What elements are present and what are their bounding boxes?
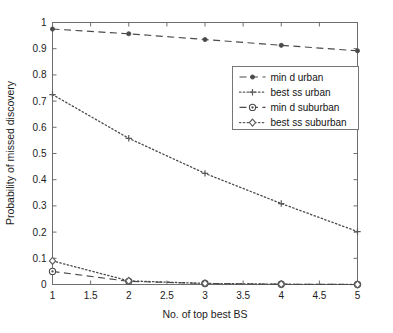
legend-label: best ss suburban [271,117,347,128]
data-point-marker-plus [202,170,208,176]
line-chart-figure: 00.10.20.30.40.50.60.70.80.91 11.522.533… [0,0,393,333]
chart-legend[interactable]: min d urbanbest ss urbanmin d suburbanbe… [233,67,359,130]
data-point-marker-circle-dot [249,104,255,110]
legend-label: best ss urban [271,87,331,98]
data-point-marker-plus [126,135,132,141]
y-tick-label: 0.9 [33,43,47,54]
series-min-d-urban [50,27,359,53]
x-tick-label: 1.5 [84,290,98,301]
y-tick-label: 0.4 [33,174,47,185]
data-point-marker-dot [250,75,254,79]
tick-marks-group [53,23,358,285]
x-tick-label: 3 [202,290,208,301]
data-point-marker-circle-dot [49,268,55,274]
plot-axes-frame [53,23,358,285]
data-point-marker-dot [203,37,207,41]
y-tick-label: 0.5 [33,148,47,159]
x-tick-label: 4.5 [312,290,326,301]
y-tick-label: 0.1 [33,253,47,264]
data-point-marker-dot [279,43,283,47]
y-tick-label: 0.2 [33,227,47,238]
x-tick-label: 2 [126,290,132,301]
y-tick-label: 1 [41,17,47,28]
y-tick-label: 0.3 [33,200,47,211]
x-tick-label: 4 [278,290,284,301]
y-tick-labels-group: 00.10.20.30.40.50.60.70.80.91 [33,17,47,290]
data-point-marker-plus [49,91,55,97]
legend-label: min d urban [271,72,324,83]
x-tick-label: 1 [50,290,56,301]
y-axis-label: Probability of missed discovery [4,80,16,225]
x-tick-label: 3.5 [236,290,250,301]
x-tick-labels-group: 11.522.533.544.55 [50,290,361,301]
data-point-marker-dot [50,27,54,31]
y-tick-label: 0.7 [33,96,47,107]
data-point-marker-plus [278,200,284,206]
x-tick-label: 5 [355,290,361,301]
data-point-marker-dot [355,49,359,53]
y-tick-label: 0 [41,279,47,290]
x-axis-label: No. of top best BS [162,308,247,320]
series-best-ss-suburban [49,257,360,288]
chart-screenshot: 00.10.20.30.40.50.60.70.80.91 11.522.533… [0,0,393,333]
data-point-marker-dot [127,32,131,36]
y-tick-label: 0.6 [33,122,47,133]
data-point-marker-plus [354,228,360,234]
y-tick-label: 0.8 [33,69,47,80]
plot-canvas: 00.10.20.30.40.50.60.70.80.91 11.522.533… [0,0,393,333]
x-tick-label: 2.5 [160,290,174,301]
legend-label: min d suburban [271,102,340,113]
